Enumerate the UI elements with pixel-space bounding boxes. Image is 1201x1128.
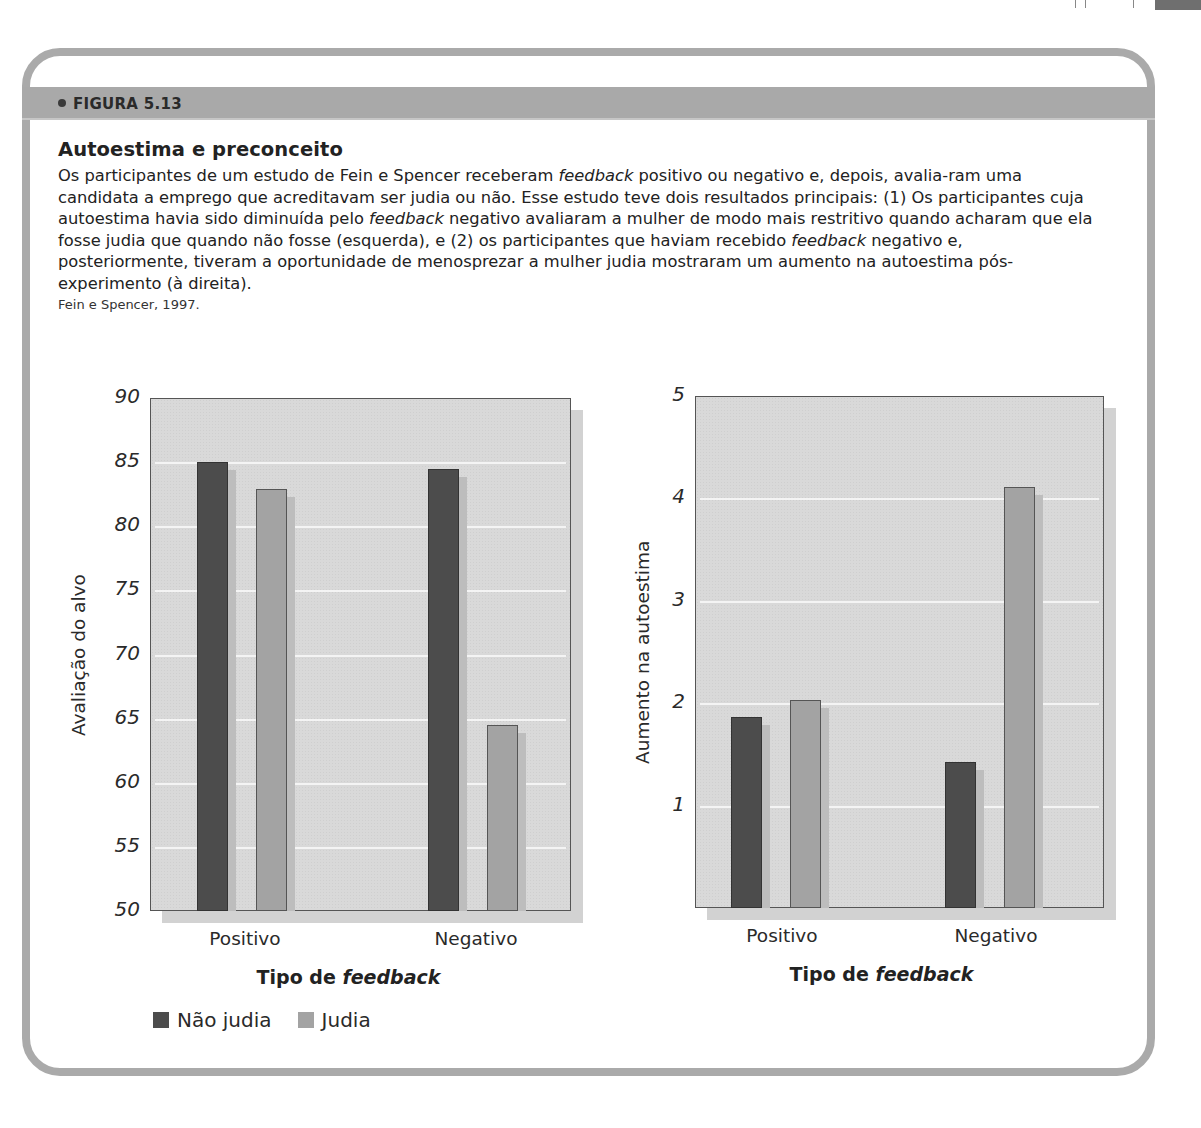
x-axis-label-italic: feedback xyxy=(342,966,440,988)
bar-nao-judia-negativo xyxy=(428,469,459,911)
y-tick-label: 1 xyxy=(645,792,685,816)
y-axis-label: Avaliação do alvo xyxy=(68,574,89,736)
x-axis-label: Tipo de feedback xyxy=(732,963,1032,985)
y-tick-label: 80 xyxy=(100,512,140,536)
y-tick-label: 5 xyxy=(645,382,685,406)
y-tick-label: 55 xyxy=(100,833,140,857)
y-tick-label: 4 xyxy=(645,484,685,508)
bar-nao-judia-positivo xyxy=(731,717,762,908)
figure-label-band: FIGURA 5.13 xyxy=(22,87,1155,120)
bar-nao-judia-negativo xyxy=(945,762,976,908)
description-italic-term: feedback xyxy=(559,166,634,185)
figure-title: Autoestima e preconceito xyxy=(58,138,1098,161)
x-axis-label-text: Tipo de xyxy=(257,966,343,988)
page-corner-tab xyxy=(1155,0,1201,10)
chart-legend: Não judiaJudia xyxy=(153,1008,397,1032)
legend-item-judia: Judia xyxy=(298,1008,371,1032)
legend-swatch-icon xyxy=(153,1012,169,1028)
x-tick-label: Positivo xyxy=(165,928,325,949)
bar-judia-negativo xyxy=(1004,487,1035,908)
figure-source: Fein e Spencer, 1997. xyxy=(58,297,1098,312)
y-tick-label: 60 xyxy=(100,769,140,793)
legend-label: Não judia xyxy=(177,1008,272,1032)
x-axis-label: Tipo de feedback xyxy=(199,966,499,988)
legend-item-nao-judia: Não judia xyxy=(153,1008,272,1032)
x-tick-label: Positivo xyxy=(702,925,862,946)
bullet-icon xyxy=(58,99,66,107)
figure-caption: Autoestima e preconceito Os participante… xyxy=(58,138,1098,312)
y-axis-label: Aumento na autoestima xyxy=(632,540,653,763)
y-tick-label: 85 xyxy=(100,448,140,472)
figure-label: FIGURA 5.13 xyxy=(58,95,182,113)
bar-nao-judia-positivo xyxy=(197,462,228,911)
bar-judia-positivo xyxy=(256,489,287,911)
legend-label: Judia xyxy=(322,1008,371,1032)
bar-judia-positivo xyxy=(790,700,821,908)
y-tick-label: 65 xyxy=(100,705,140,729)
figure-label-text: FIGURA 5.13 xyxy=(73,95,182,113)
bar-judia-negativo xyxy=(487,725,518,911)
page-header-marks xyxy=(1075,0,1135,8)
x-axis-label-italic: feedback xyxy=(875,963,973,985)
x-tick-label: Negativo xyxy=(396,928,556,949)
x-axis-label-text: Tipo de xyxy=(790,963,876,985)
y-tick-label: 50 xyxy=(100,897,140,921)
y-tick-label: 90 xyxy=(100,384,140,408)
description-italic-term: feedback xyxy=(369,209,444,228)
y-tick-label: 70 xyxy=(100,641,140,665)
figure-description: Os participantes de um estudo de Fein e … xyxy=(58,165,1098,295)
y-tick-label: 75 xyxy=(100,576,140,600)
x-tick-label: Negativo xyxy=(916,925,1076,946)
legend-swatch-icon xyxy=(298,1012,314,1028)
description-italic-term: feedback xyxy=(791,231,866,250)
description-text: Os participantes de um estudo de Fein e … xyxy=(58,166,559,185)
